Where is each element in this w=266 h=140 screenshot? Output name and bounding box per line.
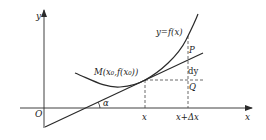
- origin-label: O: [35, 109, 43, 119]
- dy-label: dy: [188, 66, 198, 76]
- x-axis-label: x: [245, 112, 250, 122]
- point-q-label: Q: [189, 82, 196, 92]
- y-axis-label: y: [35, 11, 42, 21]
- differential-diagram: y O x y=f(x) M(x₀,f(x₀)) P dy Q α x x+Δx: [0, 0, 266, 140]
- tick-label-x: x: [142, 112, 147, 122]
- point-m-label: M(x₀,f(x₀)): [93, 67, 138, 77]
- angle-alpha-label: α: [103, 98, 109, 108]
- curve-label: y=f(x): [155, 27, 183, 37]
- tick-label-x-plus-dx: x+Δx: [176, 112, 199, 122]
- point-p-label: P: [188, 45, 195, 55]
- angle-alpha-arc: [98, 102, 100, 108]
